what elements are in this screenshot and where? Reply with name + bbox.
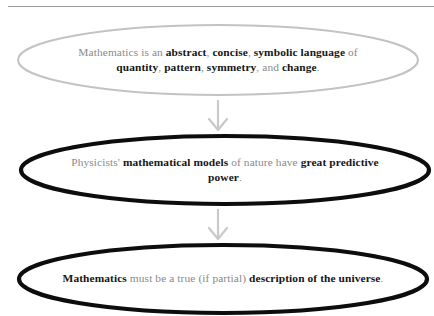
arrow-down-icon: [201, 207, 235, 243]
flow-node-physicists-models[interactable]: Physicists' mathematical models of natur…: [18, 134, 432, 206]
flow-node-2-text: Physicists' mathematical models of natur…: [18, 155, 432, 185]
flow-node-3-text: Mathematics must be a true (if partial) …: [17, 271, 430, 286]
connector-arrow-down-1: [201, 98, 235, 134]
flow-node-mathematics-definition[interactable]: Mathematics is an abstract, concise, sym…: [16, 23, 420, 97]
flow-diagram: Mathematics is an abstract, concise, sym…: [0, 0, 434, 316]
arrow-down-icon: [201, 98, 235, 134]
connector-arrow-down-2: [201, 207, 235, 243]
flow-node-mathematics-description[interactable]: Mathematics must be a true (if partial) …: [16, 243, 430, 315]
top-divider-rule: [8, 6, 434, 7]
flow-node-1-text: Mathematics is an abstract, concise, sym…: [16, 45, 420, 75]
